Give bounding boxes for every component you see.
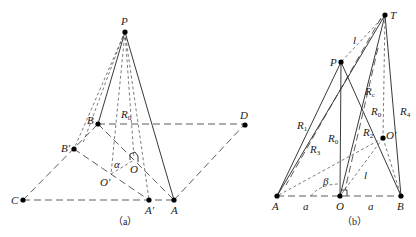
label-R3: R3 (309, 143, 321, 157)
label-O-prime: O′ (386, 129, 397, 141)
point-O (337, 193, 342, 198)
point-P (122, 29, 127, 34)
label-a-left: a (303, 200, 309, 212)
point-D (242, 122, 247, 127)
point-A-prime (146, 197, 151, 202)
point-A (274, 193, 279, 198)
point-B (398, 193, 403, 198)
label-O: O (130, 163, 138, 175)
label-R0-right: R0 (370, 105, 382, 119)
label-A: A (271, 200, 279, 212)
label-P: P (120, 15, 128, 27)
edge-T-O (340, 15, 385, 196)
point-P (338, 59, 343, 64)
figure-b: T P A O B O′ l l β a a R1 R3 R0 Rc R0 R2… (271, 9, 411, 227)
label-B: B (87, 114, 94, 126)
edge-C-B (23, 124, 98, 200)
height-P-O (125, 32, 134, 158)
seg-Oprime-A (277, 138, 383, 196)
figure-a: P B B′ C A′ A D O O′ R0 α （a） (11, 15, 248, 227)
label-A: A (170, 204, 178, 216)
label-Rc: Rc (364, 85, 375, 99)
seg-Oprime-O (340, 138, 383, 196)
point-B-prime (71, 146, 76, 151)
label-P: P (329, 56, 337, 68)
point-O-prime (380, 135, 385, 140)
point-A (171, 197, 176, 202)
label-T: T (390, 9, 397, 21)
edge-T-B (385, 15, 401, 196)
label-B: B (397, 200, 404, 212)
edge-P-Bp (74, 32, 125, 149)
edge-P-Op (111, 32, 125, 174)
label-O-prime: O′ (100, 176, 111, 188)
label-O: O (336, 200, 344, 212)
label-R1: R1 (296, 119, 308, 133)
point-T (382, 12, 387, 17)
caption-b: （b） (342, 216, 367, 227)
edge-Rc (345, 48, 378, 190)
label-R4: R4 (399, 105, 411, 119)
label-l-top: l (353, 34, 356, 46)
edge-P-aux (83, 36, 123, 143)
point-B (95, 121, 100, 126)
label-l-bottom: l (364, 169, 367, 181)
label-R0: R0 (120, 108, 132, 122)
height-P-O (340, 62, 341, 196)
edge-A-D (174, 124, 245, 200)
geometry-figure: P B B′ C A′ A D O O′ R0 α （a） (0, 0, 416, 237)
point-C (20, 197, 25, 202)
label-R2: R2 (362, 126, 374, 140)
seg-T-Oprime (383, 15, 385, 138)
label-R0-left: R0 (327, 132, 339, 146)
label-D: D (239, 109, 248, 121)
label-A-prime: A′ (144, 204, 155, 216)
label-B-prime: B′ (61, 142, 71, 154)
edge-P-A (277, 62, 341, 196)
label-beta: β (322, 175, 329, 187)
label-alpha: α (114, 158, 120, 170)
label-C: C (11, 194, 19, 206)
caption-a: （a） (113, 216, 137, 227)
label-a-right: a (368, 200, 374, 212)
